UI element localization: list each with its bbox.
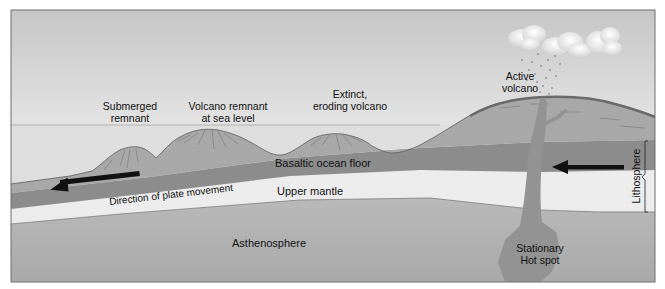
- label-line: remnant: [95, 112, 165, 124]
- label-active-volcano: Active volcano: [490, 70, 550, 94]
- label-volcano-remnant: Volcano remnant at sea level: [178, 100, 278, 124]
- label-upper-mantle: Upper mantle: [277, 185, 343, 197]
- label-line: at sea level: [178, 112, 278, 124]
- label-line: eroding volcano: [300, 100, 400, 112]
- label-line: Extinct,: [300, 88, 400, 100]
- label-line: volcano: [490, 82, 550, 94]
- label-line: Active: [490, 70, 550, 82]
- label-line: Volcano remnant: [178, 100, 278, 112]
- label-extinct-volcano: Extinct, eroding volcano: [300, 88, 400, 112]
- label-submerged-remnant: Submerged remnant: [95, 100, 165, 124]
- label-line: Hot spot: [510, 254, 570, 266]
- label-asthenosphere: Asthenosphere: [232, 237, 306, 249]
- label-line: Stationary: [510, 242, 570, 254]
- label-lithosphere: Lithosphere: [630, 140, 642, 212]
- label-line: Submerged: [95, 100, 165, 112]
- label-basaltic-ocean-floor: Basaltic ocean floor: [275, 157, 371, 169]
- label-stationary-hot-spot: Stationary Hot spot: [510, 242, 570, 266]
